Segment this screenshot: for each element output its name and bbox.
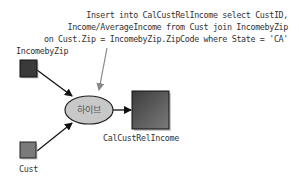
label-cust: Cust <box>19 164 38 174</box>
node-incomebyzip[interactable] <box>20 60 37 77</box>
label-hive: 하이브 <box>66 103 112 116</box>
edge-incomebyzip-to-hive <box>37 70 72 96</box>
edge-cust-to-hive <box>37 123 72 151</box>
node-output[interactable] <box>132 91 169 129</box>
diagram-canvas <box>0 0 299 185</box>
node-cust[interactable] <box>20 142 36 158</box>
label-output: CalCustRelIncome <box>103 133 179 143</box>
annotation-pointer <box>99 48 107 90</box>
label-incomebyzip: IncomebyZip <box>16 46 68 56</box>
